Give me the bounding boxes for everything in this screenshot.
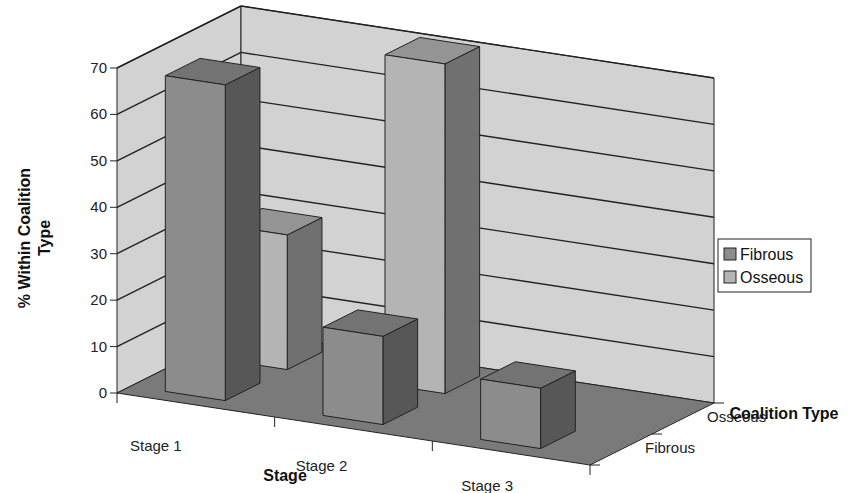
bar-side	[445, 47, 480, 394]
x-tick-label: Stage 3	[461, 477, 513, 493]
y-axis-title-line: Type	[36, 220, 53, 256]
bar-front	[165, 76, 225, 401]
legend-label-fibrous: Fibrous	[740, 246, 793, 263]
bar-fibrous-stage-2	[323, 310, 418, 425]
y-axis-title-line: % Within Coalition	[16, 168, 33, 308]
legend-swatch-fibrous	[724, 248, 736, 260]
bar-side	[383, 319, 418, 425]
legend-swatch-osseous	[724, 271, 736, 283]
y-tick-label: 10	[90, 338, 107, 355]
y-tick-label: 70	[90, 59, 107, 76]
z-tick-label: Fibrous	[645, 439, 695, 456]
bar-side	[225, 68, 260, 401]
y-tick-label: 30	[90, 245, 107, 262]
z-axis-title: Coalition Type	[729, 405, 838, 422]
y-tick-label: 0	[99, 384, 107, 401]
y-tick-label: 50	[90, 152, 107, 169]
x-tick-label: Stage 1	[130, 437, 182, 454]
legend-label-osseous: Osseous	[740, 269, 803, 286]
y-tick-label: 20	[90, 291, 107, 308]
chart: 102030405060700Stage 1Stage 2Stage 3Fibr…	[0, 0, 859, 493]
bar-front	[323, 327, 383, 424]
bar-fibrous-stage-1	[165, 58, 260, 400]
y-tick-label: 60	[90, 105, 107, 122]
legend: Fibrous Osseous	[718, 239, 811, 292]
bar-front	[481, 379, 541, 448]
y-axis-title: % Within CoalitionType	[16, 168, 53, 308]
bar-fibrous-stage-3	[481, 362, 576, 449]
x-axis-title: Stage	[263, 467, 307, 484]
y-tick-label: 40	[90, 198, 107, 215]
bar-side	[287, 218, 322, 370]
